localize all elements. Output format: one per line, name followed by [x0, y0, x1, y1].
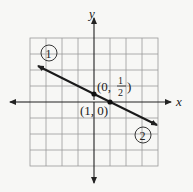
fraction-denominator: 2: [118, 87, 123, 98]
point-1-0: [107, 99, 112, 104]
coordinate-graph: x y (0, 1 2 ) (1, 0) 1 2: [0, 0, 193, 192]
point-label-close: ): [127, 79, 131, 94]
marker-1: 1: [41, 45, 57, 61]
axes: [10, 18, 171, 183]
svg-text:1: 1: [46, 47, 52, 61]
fraction-numerator: 1: [118, 75, 123, 86]
point-label-0-half: (0,: [97, 79, 111, 94]
x-axis-label: x: [175, 94, 182, 109]
svg-text:2: 2: [140, 129, 146, 143]
y-axis-label: y: [87, 6, 95, 21]
marker-2: 2: [135, 127, 151, 143]
point-label-1-0: (1, 0): [80, 103, 108, 118]
point-0-half: [91, 91, 96, 96]
